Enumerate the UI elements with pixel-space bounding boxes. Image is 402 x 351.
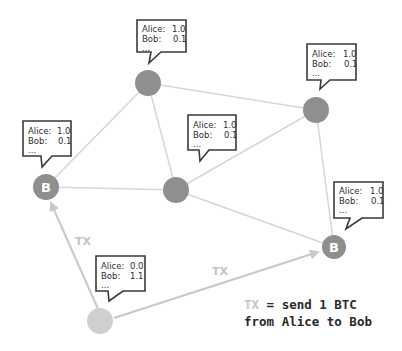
svg-text:Alice:: Alice: [142, 24, 165, 34]
legend-line-1-rest: = send 1 BTC [259, 297, 357, 312]
svg-text:Alice:: Alice: [101, 261, 124, 271]
callout-right-bottom: Alice: 1.0 Bob: 0.1 ... [334, 182, 385, 229]
legend-line-2: from Alice to Bob [244, 314, 372, 329]
tx-label-right: TX [212, 265, 229, 278]
svg-text:...: ... [101, 280, 109, 290]
svg-text:Alice:: Alice: [28, 126, 51, 136]
edge-top-rightTop [148, 83, 316, 110]
callout-right-top: Alice: 1.0 Bob: 0.1 ... [307, 44, 358, 89]
svg-text:0.1: 0.1 [224, 130, 238, 140]
legend: TX = send 1 BTC from Alice to Bob [244, 297, 372, 329]
edge-middle-rightBottom [176, 190, 334, 247]
edge-left-middle [46, 187, 176, 190]
svg-text:...: ... [193, 139, 201, 149]
svg-text:0.1: 0.1 [58, 136, 72, 146]
svg-text:Alice:: Alice: [312, 49, 335, 59]
callout-middle: Alice: 1.0 Bob: 0.1 ... [188, 115, 238, 161]
node-right-bottom-label: B [329, 240, 339, 255]
svg-text:0.1: 0.1 [344, 59, 358, 69]
svg-text:Alice:: Alice: [193, 120, 216, 130]
svg-text:1.0: 1.0 [57, 126, 71, 136]
svg-text:1.1: 1.1 [130, 271, 144, 281]
node-bottom[interactable] [87, 308, 113, 334]
svg-text:0.1: 0.1 [371, 196, 385, 206]
tx-edge-to-left [51, 203, 98, 309]
tx-label-left: TX [75, 235, 92, 248]
edge-top-middle [148, 83, 176, 190]
network-edges [46, 83, 334, 247]
node-middle[interactable] [163, 177, 189, 203]
svg-text:...: ... [142, 43, 150, 53]
svg-text:1.0: 1.0 [370, 186, 384, 196]
edge-rightTop-rightBottom [316, 110, 334, 247]
node-left-label: B [41, 180, 51, 195]
node-top[interactable] [135, 70, 161, 96]
callout-left: Alice: 1.0 Bob: 0.1 ... [23, 121, 72, 167]
svg-text:1.0: 1.0 [172, 24, 186, 34]
callout-bottom: Alice: 0.0 Bob: 1.1 ... [96, 256, 145, 301]
svg-text:1.0: 1.0 [223, 120, 237, 130]
callout-top: Alice: 1.0 Bob: 0.1 ... [137, 20, 187, 63]
network-diagram: TX TX B B Alice: 1.0 Bob: 0.1 ... Alice:… [0, 0, 402, 351]
svg-text:...: ... [339, 205, 347, 215]
svg-text:0.1: 0.1 [173, 34, 187, 44]
svg-text:0.0: 0.0 [130, 261, 144, 271]
svg-text:...: ... [312, 68, 320, 78]
legend-tx-label: TX [244, 297, 260, 312]
node-right-top[interactable] [303, 97, 329, 123]
legend-line-1: TX = send 1 BTC [244, 297, 357, 312]
svg-text:1.0: 1.0 [343, 49, 357, 59]
svg-text:...: ... [28, 145, 36, 155]
svg-text:Alice:: Alice: [339, 186, 362, 196]
